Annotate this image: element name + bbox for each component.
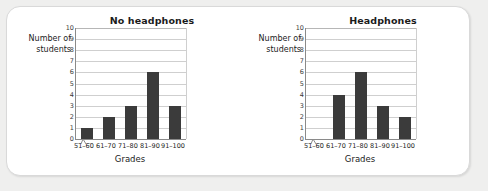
chart-headphones: Headphones Number of students 1098765432… — [239, 7, 471, 177]
x-axis-tick-label: 51–60 — [73, 142, 95, 150]
y-axis-tick-label: 2 — [293, 114, 304, 121]
bar-slot — [76, 28, 98, 139]
y-axis-tick-label: 8 — [63, 47, 74, 54]
bar — [333, 95, 345, 139]
y-axis-tick-label: 9 — [63, 36, 74, 43]
x-axis-tick-label: 91–100 — [161, 142, 183, 150]
y-axis-tick-label: 7 — [63, 58, 74, 65]
figure-root: No headphones Number of students 1098765… — [0, 0, 488, 191]
bar-slot — [142, 28, 164, 139]
y-axis-tick-label: 3 — [63, 103, 74, 110]
bar — [377, 106, 389, 139]
x-axis-tick-labels: 51–6061–7071–8081–9091–100 — [305, 142, 415, 154]
chart-title: No headphones — [7, 15, 239, 26]
x-axis-tick-label: 61–70 — [325, 142, 347, 150]
bar-series — [306, 28, 416, 139]
plot-area — [75, 28, 186, 140]
bar — [399, 117, 411, 139]
y-axis-tick-label: 10 — [63, 25, 74, 32]
x-axis-tick-label: 51–60 — [303, 142, 325, 150]
y-axis-tick-label: 1 — [293, 125, 304, 132]
bar — [147, 72, 159, 139]
y-axis-tick-label: 2 — [63, 114, 74, 121]
y-axis-tick-label: 8 — [293, 47, 304, 54]
y-axis-tick-label: 5 — [293, 81, 304, 88]
x-axis-tick-label: 71–80 — [347, 142, 369, 150]
bar-slot — [328, 28, 350, 139]
x-axis-tick-label: 91–100 — [391, 142, 413, 150]
bar-series — [76, 28, 186, 139]
x-axis-tick-label: 71–80 — [117, 142, 139, 150]
bar-slot — [394, 28, 416, 139]
x-axis-label: Grades — [305, 154, 415, 164]
y-axis-tick-label: 10 — [293, 25, 304, 32]
x-axis-tick-labels: 51–6061–7071–8081–9091–100 — [75, 142, 185, 154]
y-axis-tick-label: 6 — [293, 69, 304, 76]
y-axis-ticks: 109876543210 — [63, 28, 74, 139]
y-axis-ticks: 109876543210 — [293, 28, 304, 139]
figure-panel: No headphones Number of students 1098765… — [6, 6, 470, 176]
bar — [81, 128, 93, 139]
plot-right-edge — [186, 28, 187, 139]
bar-slot — [98, 28, 120, 139]
plot-area — [305, 28, 416, 140]
x-axis-tick-label: 61–70 — [95, 142, 117, 150]
plot-area-wrapper: 109876543210 51–6061–7071–8081–9091–100 — [75, 28, 185, 141]
bar-slot — [350, 28, 372, 139]
y-axis-tick-label: 5 — [63, 81, 74, 88]
y-axis-tick-label: 7 — [293, 58, 304, 65]
y-axis-tick-label: 3 — [293, 103, 304, 110]
x-axis-label: Grades — [75, 154, 185, 164]
y-axis-tick-label: 6 — [63, 69, 74, 76]
plot-right-edge — [416, 28, 417, 139]
bar-slot — [120, 28, 142, 139]
y-axis-tick-label: 1 — [63, 125, 74, 132]
bar — [169, 106, 181, 139]
y-axis-tick-label: 9 — [293, 36, 304, 43]
x-axis-tick-label: 81–90 — [369, 142, 391, 150]
bar — [103, 117, 115, 139]
bar — [125, 106, 137, 139]
y-axis-tick-label: 4 — [63, 92, 74, 99]
x-axis-tick-label: 81–90 — [139, 142, 161, 150]
chart-title: Headphones — [239, 15, 471, 26]
bar-slot — [306, 28, 328, 139]
chart-no-headphones: No headphones Number of students 1098765… — [7, 7, 239, 177]
y-axis-tick-label: 4 — [293, 92, 304, 99]
bar-slot — [372, 28, 394, 139]
plot-area-wrapper: 109876543210 51–6061–7071–8081–9091–100 — [305, 28, 415, 141]
bar-slot — [164, 28, 186, 139]
bar — [355, 72, 367, 139]
